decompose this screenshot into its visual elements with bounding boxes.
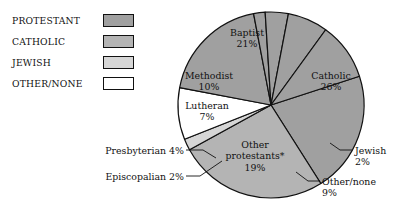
slice-label-baptist: Baptist 21%: [216, 27, 278, 50]
slice-label-methodist-pct: 10%: [199, 81, 220, 92]
slice-label-catholic-name: Catholic: [311, 70, 350, 81]
slice-label-other-protestants-pct: 19%: [245, 162, 266, 173]
callout-label-episcopalian: Episcopalian 2%: [96, 171, 184, 182]
callout-label-other-none-name: Other/none: [322, 176, 376, 187]
callout-label-jewish-name: Jewish: [355, 145, 386, 156]
slice-label-catholic: Catholic 26%: [300, 70, 362, 93]
slice-label-other-protestants: Other protestants* 19%: [219, 139, 291, 173]
slice-label-lutheran-name: Lutheran: [185, 100, 229, 111]
callout-label-jewish: Jewish 2%: [355, 145, 403, 168]
slice-label-lutheran: Lutheran 7%: [179, 100, 235, 123]
callout-label-jewish-pct: 2%: [355, 156, 370, 167]
slice-label-methodist-name: Methodist: [185, 70, 233, 81]
slice-label-baptist-name: Baptist: [230, 27, 264, 38]
slice-label-other-protestants-name: Other: [241, 139, 269, 150]
slice-label-other-protestants-name2: protestants*: [226, 150, 285, 161]
slice-label-baptist-pct: 21%: [237, 38, 258, 49]
callout-label-presbyterian: Presbyterian 4%: [96, 145, 184, 156]
chart-canvas: PROTESTANT CATHOLIC JEWISH OTHER/NONE Ba…: [0, 0, 405, 210]
slice-label-lutheran-pct: 7%: [200, 111, 215, 122]
callout-label-other-none: Other/none 9%: [322, 176, 402, 199]
slice-label-catholic-pct: 26%: [321, 81, 342, 92]
slice-label-methodist: Methodist 10%: [176, 70, 242, 93]
callout-label-other-none-pct: 9%: [322, 187, 337, 198]
